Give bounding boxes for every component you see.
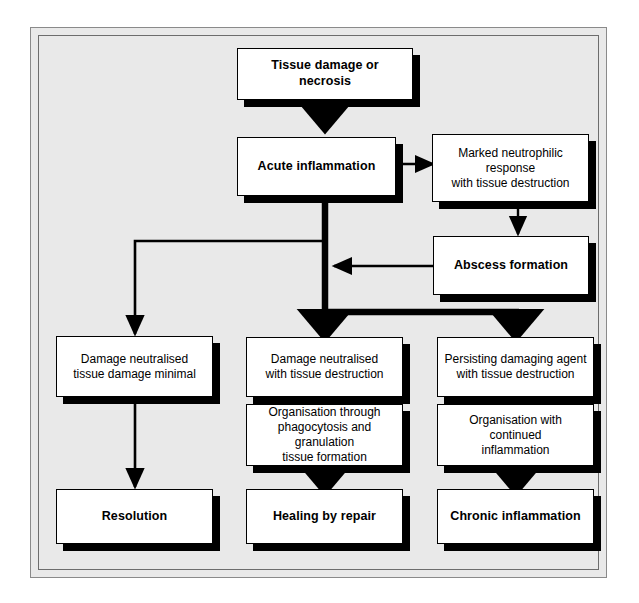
flowchart-canvas: Tissue damage or necrosis Acute inflamma…	[0, 0, 639, 603]
node-tissue-damage-label: Tissue damage or necrosis	[238, 58, 412, 89]
node-damage-minimal-label: Damage neutralisedtissue damage minimal	[67, 352, 202, 382]
node-acute-inflammation-label: Acute inflammation	[252, 159, 382, 175]
node-damage-destruction-label: Damage neutralisedwith tissue destructio…	[259, 352, 389, 382]
node-marked-neutrophilic-label: Marked neutrophilic responsewith tissue …	[433, 146, 588, 191]
node-damage-minimal[interactable]: Damage neutralisedtissue damage minimal	[56, 336, 213, 397]
node-persisting-agent[interactable]: Persisting damaging agentwith tissue des…	[437, 337, 594, 397]
node-organisation-continued[interactable]: Organisation with continuedinflammation	[437, 404, 594, 466]
node-persisting-agent-label: Persisting damaging agentwith tissue des…	[438, 352, 592, 382]
node-organisation-continued-label: Organisation with continuedinflammation	[438, 413, 593, 458]
node-chronic-inflammation[interactable]: Chronic inflammation	[437, 489, 594, 544]
node-marked-neutrophilic[interactable]: Marked neutrophilic responsewith tissue …	[432, 134, 589, 202]
node-resolution-label: Resolution	[96, 509, 174, 525]
node-abscess-formation[interactable]: Abscess formation	[433, 236, 589, 295]
node-tissue-damage[interactable]: Tissue damage or necrosis	[237, 48, 413, 100]
node-acute-inflammation[interactable]: Acute inflammation	[237, 137, 396, 196]
node-abscess-formation-label: Abscess formation	[448, 258, 574, 274]
node-chronic-inflammation-label: Chronic inflammation	[444, 509, 586, 525]
node-organisation-phagocytosis-label: Organisation throughphagocytosis and gra…	[247, 405, 402, 465]
node-resolution[interactable]: Resolution	[56, 489, 213, 544]
node-healing-by-repair[interactable]: Healing by repair	[246, 489, 403, 544]
node-healing-by-repair-label: Healing by repair	[267, 509, 382, 525]
node-damage-destruction[interactable]: Damage neutralisedwith tissue destructio…	[246, 337, 403, 397]
node-organisation-phagocytosis[interactable]: Organisation throughphagocytosis and gra…	[246, 404, 403, 466]
